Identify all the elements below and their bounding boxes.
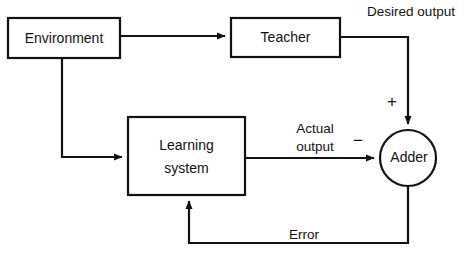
edge-label-desired-output: Desired output xyxy=(367,4,455,19)
node-learning-system-label-line1: Learning xyxy=(159,137,214,153)
node-environment-label: Environment xyxy=(25,30,104,46)
edge-label-error: Error xyxy=(289,227,320,242)
edge-label-actual-output-line1: Actual xyxy=(296,121,334,136)
edge-environment-to-learning-system xyxy=(62,58,122,157)
minus-sign-label: − xyxy=(353,131,363,150)
node-learning-system-label-line2: system xyxy=(164,160,208,176)
plus-sign-label: + xyxy=(387,92,397,111)
edge-teacher-to-adder xyxy=(340,37,408,124)
node-adder-label: Adder xyxy=(390,149,428,165)
edge-label-actual-output-line2: output xyxy=(296,139,334,154)
learning-system-diagram: Environment Teacher Learning system Adde… xyxy=(0,0,474,262)
node-learning-system[interactable] xyxy=(128,117,245,195)
node-teacher-label: Teacher xyxy=(261,29,311,45)
diagram-canvas: Environment Teacher Learning system Adde… xyxy=(0,0,474,262)
